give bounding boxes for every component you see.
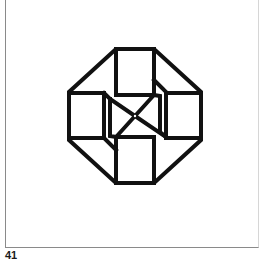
left-square	[69, 93, 104, 138]
center-dot	[134, 115, 136, 117]
right-square	[166, 93, 201, 138]
octagon-figure	[0, 0, 261, 262]
bottom-square	[116, 137, 154, 183]
figure-number: 41	[5, 249, 17, 261]
top-square	[116, 49, 154, 95]
